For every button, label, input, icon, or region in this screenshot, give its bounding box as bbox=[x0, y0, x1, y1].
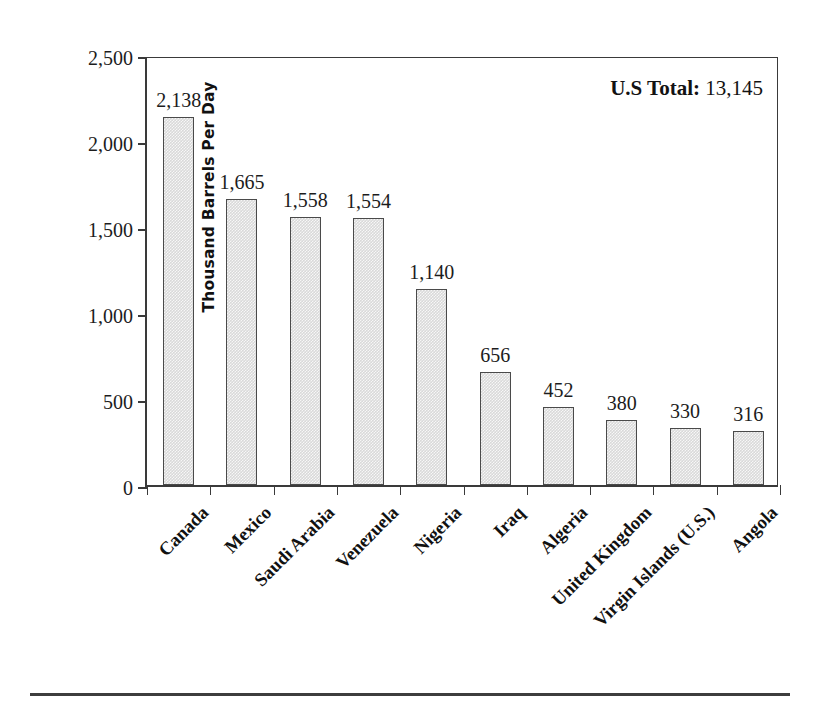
y-tick-label: 1,500 bbox=[27, 220, 147, 240]
y-tick-mark bbox=[138, 229, 147, 231]
us-total-value: 13,145 bbox=[705, 76, 763, 100]
y-tick-mark bbox=[138, 315, 147, 317]
bar-mexico bbox=[226, 199, 257, 485]
bar-value-label: 452 bbox=[543, 380, 573, 400]
x-tick-mark bbox=[780, 485, 781, 495]
bar-value-label: 380 bbox=[607, 393, 637, 413]
x-tick-mark bbox=[590, 485, 591, 495]
x-axis-label: Canada bbox=[155, 503, 212, 560]
x-tick-mark bbox=[653, 485, 654, 495]
y-axis-title: Thousand Barrels Per Day bbox=[200, 47, 218, 347]
y-tick-label: 2,500 bbox=[27, 48, 147, 68]
bar-venezuela bbox=[353, 218, 384, 485]
x-tick-mark bbox=[717, 485, 718, 495]
x-tick-mark bbox=[527, 485, 528, 495]
bar-value-label: 1,140 bbox=[409, 262, 454, 282]
y-tick-mark bbox=[138, 143, 147, 145]
y-tick-label: 0 bbox=[27, 478, 147, 498]
y-tick-label: 1,000 bbox=[27, 306, 147, 326]
bar-united-kingdom bbox=[606, 420, 637, 485]
us-total-annotation: U.S Total: 13,145 bbox=[610, 78, 763, 99]
y-tick-mark bbox=[138, 401, 147, 403]
x-tick-mark bbox=[464, 485, 465, 495]
x-tick-mark bbox=[337, 485, 338, 495]
us-total-label: U.S Total: bbox=[610, 76, 700, 100]
footer-divider bbox=[30, 693, 790, 696]
bar-value-label: 656 bbox=[480, 345, 510, 365]
bar-algeria bbox=[543, 407, 574, 485]
bar-nigeria bbox=[416, 289, 447, 485]
bar-canada bbox=[163, 117, 194, 485]
y-tick-label: 500 bbox=[27, 392, 147, 412]
x-axis-label: Venezuela bbox=[332, 503, 401, 572]
bar-iraq bbox=[480, 372, 511, 485]
x-axis-label: Nigeria bbox=[410, 503, 464, 557]
bar-saudi-arabia bbox=[290, 217, 321, 485]
plot-area: Thousand Barrels Per Day 05001,0001,5002… bbox=[145, 57, 778, 487]
y-tick-mark bbox=[138, 487, 147, 489]
bar-value-label: 316 bbox=[733, 404, 763, 424]
y-tick-mark bbox=[138, 57, 147, 59]
bar-value-label: 1,554 bbox=[346, 191, 391, 211]
x-tick-mark bbox=[210, 485, 211, 495]
x-tick-mark bbox=[147, 485, 148, 495]
x-tick-mark bbox=[400, 485, 401, 495]
x-tick-mark bbox=[274, 485, 275, 495]
x-axis-label: Virgin Islands (U.S.) bbox=[591, 503, 718, 630]
bar-value-label: 2,138 bbox=[156, 90, 201, 110]
bar-value-label: 330 bbox=[670, 401, 700, 421]
bar-angola bbox=[733, 431, 764, 485]
x-axis-label: Iraq bbox=[490, 503, 528, 541]
y-tick-label: 2,000 bbox=[27, 134, 147, 154]
bar-value-label: 1,665 bbox=[219, 172, 264, 192]
x-axis-label: Angola bbox=[728, 503, 781, 556]
x-axis-label: Algeria bbox=[537, 503, 591, 557]
bar-virgin-islands-u-s bbox=[670, 428, 701, 485]
bar-chart-figure: Thousand Barrels Per Day 05001,0001,5002… bbox=[0, 0, 818, 719]
x-axis-label: Mexico bbox=[221, 503, 275, 557]
bar-value-label: 1,558 bbox=[283, 190, 328, 210]
